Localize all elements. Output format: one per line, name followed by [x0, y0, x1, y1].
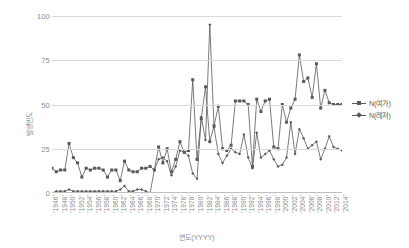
x-axis-tick-label: '2002': [291, 195, 298, 213]
x-axis-tick-label: '1948': [61, 195, 68, 213]
data-point: [302, 80, 305, 83]
data-point: [140, 188, 143, 191]
data-point: [294, 153, 297, 156]
data-point: [123, 160, 126, 163]
gridline: [52, 16, 342, 17]
data-point: [247, 156, 250, 159]
legend-item-1[interactable]: N(여가): [352, 97, 409, 109]
y-axis-tick-label: 50: [4, 100, 50, 109]
data-point: [268, 98, 271, 101]
data-point: [298, 128, 301, 131]
y-axis-tick-label: 75: [4, 56, 50, 65]
data-point: [72, 156, 75, 159]
y-axis-tick-label: 0: [4, 189, 50, 198]
data-point: [208, 23, 211, 26]
x-axis-tick-label: '1954': [86, 195, 93, 213]
x-axis-tick-label: '2010': [325, 195, 332, 213]
data-point: [323, 89, 326, 92]
legend-item-2[interactable]: N(레저): [352, 109, 409, 121]
x-axis-tick-label: '1998': [274, 195, 281, 213]
data-point: [298, 53, 301, 56]
x-axis-tick-label: '1964': [129, 195, 136, 213]
data-point: [285, 121, 288, 124]
x-axis-tick-label: '1996': [265, 195, 272, 213]
x-axis-tick-label: '1960': [112, 195, 119, 213]
x-axis-tick-label: '2012': [333, 195, 340, 213]
chart-container: 발생빈도 0255075100 '1946''1948''1950''1952'…: [0, 0, 409, 248]
x-axis-tick-label: '1956': [95, 195, 102, 213]
data-point: [106, 176, 109, 179]
data-point: [127, 168, 130, 171]
data-point: [230, 144, 233, 147]
data-point: [319, 107, 322, 110]
legend-marker-icon: [352, 100, 366, 107]
x-axis-tick-label: '1994': [257, 195, 264, 213]
x-axis-tick-label: '2008': [316, 195, 323, 213]
data-point: [114, 168, 117, 171]
gridline: [52, 149, 342, 150]
data-point: [76, 161, 79, 164]
x-axis-tick-label: '2006': [308, 195, 315, 213]
data-point: [102, 168, 105, 171]
data-point: [204, 85, 207, 88]
x-axis-tick-label: '1952': [78, 195, 85, 213]
x-axis-tick-label: '1970': [154, 195, 161, 213]
chart-legend: N(여가)N(레저): [352, 97, 409, 121]
x-axis-tick-label: '1962': [120, 195, 127, 213]
x-axis-tick-label: '1972': [163, 195, 170, 213]
data-point: [136, 188, 139, 191]
data-point: [144, 167, 147, 170]
data-point: [63, 168, 66, 171]
x-axis-ticks: '1946''1948''1950''1952''1954''1956''195…: [52, 195, 342, 235]
data-point: [306, 76, 309, 79]
x-axis-tick-label: '1958': [103, 195, 110, 213]
data-point: [59, 168, 62, 171]
series-1: [52, 53, 342, 182]
y-axis-ticks: 0255075100: [0, 16, 50, 193]
legend-label: N(여가): [369, 98, 391, 108]
data-point: [110, 168, 113, 171]
data-point: [93, 167, 96, 170]
x-axis-tick-label: '1978': [188, 195, 195, 213]
x-axis-tick-label: '1986': [223, 195, 230, 213]
data-point: [255, 131, 258, 134]
x-axis-line: [52, 192, 342, 193]
data-point: [289, 107, 292, 110]
data-point: [132, 170, 135, 173]
gridline: [52, 60, 342, 61]
data-point: [319, 158, 322, 161]
data-point: [208, 140, 211, 143]
data-point: [68, 188, 71, 191]
data-point: [217, 153, 220, 156]
legend-marker-icon: [352, 112, 366, 119]
data-point: [68, 142, 71, 145]
data-point: [238, 99, 241, 102]
y-axis-tick-label: 25: [4, 144, 50, 153]
x-axis-tick-label: '2004': [299, 195, 306, 213]
data-point: [255, 98, 258, 101]
data-point: [80, 176, 83, 179]
data-point: [89, 168, 92, 171]
data-point: [302, 137, 305, 140]
data-point: [97, 167, 100, 170]
x-axis-tick-label: '1968': [146, 195, 153, 213]
data-point: [259, 110, 262, 113]
data-point: [140, 167, 143, 170]
x-axis-tick-label: '1980': [197, 195, 204, 213]
x-axis-tick-label: '1982': [206, 195, 213, 213]
data-point: [315, 62, 318, 65]
data-point: [234, 99, 237, 102]
x-axis-tick-label: '1990': [240, 195, 247, 213]
x-axis-tick-label: '1946': [52, 195, 59, 213]
x-axis-tick-label: '1966': [137, 195, 144, 213]
data-point: [242, 133, 245, 136]
data-point: [149, 165, 152, 168]
data-point: [170, 174, 173, 177]
data-point: [328, 135, 331, 138]
y-axis-tick-label: 100: [4, 12, 50, 21]
data-point: [204, 138, 207, 141]
legend-label: N(레저): [369, 110, 391, 120]
x-axis-tick-label: '1984': [214, 195, 221, 213]
data-point: [52, 167, 54, 170]
data-point: [85, 167, 88, 170]
